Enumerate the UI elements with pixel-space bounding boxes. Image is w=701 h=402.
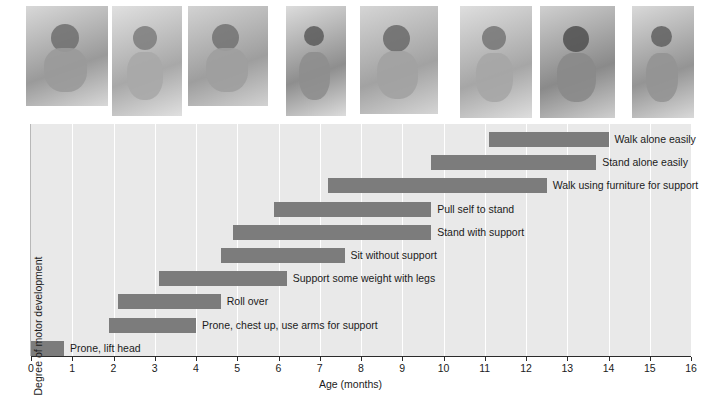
bar-pull-self-to-stand — [274, 202, 431, 217]
bar-label: Walk alone easily — [615, 132, 696, 147]
bar-label: Sit without support — [351, 248, 437, 263]
x-tick-label: 3 — [140, 362, 170, 374]
x-tick-label: 15 — [635, 362, 665, 374]
bar-walk-alone-easily — [489, 132, 609, 147]
gridline — [72, 124, 73, 356]
bar-label: Pull self to stand — [437, 202, 514, 217]
bar-walk-using-furniture-for-support — [328, 178, 547, 193]
bar-support-some-weight-with-legs — [159, 271, 287, 286]
x-tick-label: 10 — [429, 362, 459, 374]
infant-prone-lift-head-photo — [26, 6, 108, 106]
bar-label: Support some weight with legs — [293, 271, 435, 286]
x-tick — [196, 357, 197, 361]
x-tick — [72, 357, 73, 361]
infant-rolling-over-photo — [112, 6, 182, 116]
bar-stand-alone-easily — [431, 155, 596, 170]
x-tick — [237, 357, 238, 361]
x-tick-label: 11 — [470, 362, 500, 374]
bar-stand-with-support — [233, 225, 431, 240]
x-tick — [31, 357, 32, 361]
bar-label: Roll over — [227, 294, 268, 309]
x-tick — [361, 357, 362, 361]
x-tick — [444, 357, 445, 361]
x-tick — [691, 357, 692, 361]
gridline — [691, 124, 692, 356]
infant-cruising-furniture-photo — [460, 6, 532, 118]
infant-pull-to-stand-photo — [360, 6, 438, 114]
x-tick-label: 12 — [511, 362, 541, 374]
motor-development-figure: Walk alone easilyStand alone easilyWalk … — [0, 0, 701, 402]
bar-label: Walk using furniture for support — [553, 178, 699, 193]
bar-sit-without-support — [221, 248, 345, 263]
x-tick — [609, 357, 610, 361]
x-tick-label: 9 — [387, 362, 417, 374]
x-tick-label: 2 — [99, 362, 129, 374]
x-tick — [650, 357, 651, 361]
x-tick — [567, 357, 568, 361]
x-tick — [526, 357, 527, 361]
infant-standing-assisted-photo — [540, 6, 615, 118]
bar-label: Stand with support — [437, 225, 524, 240]
x-tick-label: 5 — [222, 362, 252, 374]
x-tick — [114, 357, 115, 361]
x-tick-label: 1 — [57, 362, 87, 374]
x-tick-label: 0 — [16, 362, 46, 374]
infant-photo-strip — [0, 0, 701, 120]
infant-crawling-photo — [188, 6, 268, 106]
x-tick-label: 6 — [264, 362, 294, 374]
x-tick-label: 4 — [181, 362, 211, 374]
bar-label: Prone, chest up, use arms for support — [202, 318, 378, 333]
x-tick — [320, 357, 321, 361]
infant-sitting-photo — [286, 6, 346, 116]
x-tick-label: 7 — [305, 362, 335, 374]
gridline — [196, 124, 197, 356]
x-tick — [402, 357, 403, 361]
gridline — [402, 124, 403, 356]
bar-prone-chest-up-use-arms-for-support — [109, 318, 196, 333]
bar-roll-over — [118, 294, 221, 309]
x-tick-label: 14 — [594, 362, 624, 374]
infant-walking-alone-photo — [632, 6, 694, 118]
y-axis: Degree of motor development — [14, 124, 30, 356]
x-tick-label: 8 — [346, 362, 376, 374]
bar-label: Stand alone easily — [602, 155, 688, 170]
x-tick-label: 13 — [552, 362, 582, 374]
plot-area: Walk alone easilyStand alone easilyWalk … — [31, 124, 691, 356]
x-tick-label: 16 — [676, 362, 701, 374]
x-axis-title: Age (months) — [0, 378, 701, 390]
x-tick — [485, 357, 486, 361]
x-tick — [279, 357, 280, 361]
bar-label: Prone, lift head — [70, 341, 141, 356]
x-tick — [155, 357, 156, 361]
